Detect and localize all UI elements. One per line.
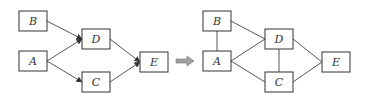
edge-a-d (47, 39, 82, 61)
edge-c-e (110, 62, 140, 82)
edge-c-e (293, 62, 322, 82)
node-label: D (91, 33, 101, 46)
node-c: C (265, 72, 293, 92)
node-e: E (322, 52, 350, 72)
node-label: A (28, 55, 37, 68)
node-label: A (212, 55, 221, 68)
node-e: E (140, 52, 168, 72)
node-label: D (274, 33, 284, 46)
node-label: C (275, 76, 284, 89)
node-a: A (203, 51, 231, 71)
node-b: B (203, 11, 231, 31)
node-d: D (82, 29, 110, 49)
edge-a-d (231, 39, 265, 61)
edge-d-e (293, 39, 322, 62)
edge-b-d (47, 21, 82, 39)
node-b: B (19, 11, 47, 31)
node-label: C (92, 76, 101, 89)
edge-a-c (231, 61, 265, 82)
node-label: E (149, 56, 158, 69)
edge-b-d (231, 21, 265, 39)
edge-d-e (110, 39, 140, 62)
node-c: C (82, 72, 110, 92)
node-d: D (265, 29, 293, 49)
node-a: A (19, 51, 47, 71)
undirected-graph: B A D C E (203, 11, 350, 92)
node-label: E (331, 56, 340, 69)
diagram-canvas: B A D C E B (0, 0, 368, 101)
directed-graph: B A D C E (19, 11, 168, 92)
node-label: B (212, 15, 221, 28)
edge-a-c (47, 61, 82, 82)
transform-arrow-icon (176, 56, 194, 66)
node-label: B (28, 15, 37, 28)
